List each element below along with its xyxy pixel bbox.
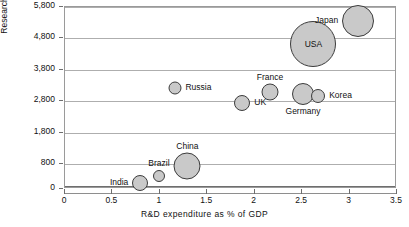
y-tick-label: 0 bbox=[0, 183, 55, 192]
bubble-label-brazil: Brazil bbox=[148, 159, 169, 168]
x-tick-label: 2.5 bbox=[295, 196, 307, 205]
bubble-japan[interactable] bbox=[342, 5, 374, 37]
bubble-label-china: China bbox=[176, 142, 198, 151]
x-tick-label: 1 bbox=[156, 196, 161, 205]
x-tick-label: 1.5 bbox=[200, 196, 212, 205]
x-tick-mark bbox=[159, 189, 160, 194]
y-tick-label: 5,800 bbox=[0, 1, 55, 10]
x-tick-mark bbox=[396, 189, 397, 194]
y-tick-label: 800 bbox=[0, 158, 55, 167]
bubble-label-usa: USA bbox=[305, 39, 322, 49]
x-tick-mark bbox=[254, 189, 255, 194]
gridline-y bbox=[65, 7, 395, 8]
bubble-russia[interactable] bbox=[168, 81, 181, 94]
x-tick-mark bbox=[301, 189, 302, 194]
bubble-korea[interactable] bbox=[311, 89, 325, 103]
y-tick-mark bbox=[59, 37, 63, 38]
y-tick-mark bbox=[59, 188, 63, 189]
x-tick-label: 3.5 bbox=[390, 196, 402, 205]
bubble-india[interactable] bbox=[132, 175, 148, 191]
gridline-y bbox=[65, 38, 395, 39]
y-tick-label: 1,800 bbox=[0, 127, 55, 136]
bubble-label-japan: Japan bbox=[315, 16, 338, 25]
gridline-y bbox=[65, 101, 395, 102]
bubble-label-india: India bbox=[110, 178, 128, 187]
bubble-label-russia: Russia bbox=[185, 83, 211, 92]
y-tick-mark bbox=[59, 132, 63, 133]
x-axis-title: R&D expenditure as % of GDP bbox=[0, 209, 409, 219]
x-tick-mark bbox=[111, 189, 112, 194]
bubble-brazil[interactable] bbox=[153, 170, 165, 182]
x-axis-line bbox=[64, 193, 396, 194]
x-tick-mark bbox=[64, 189, 65, 194]
bubble-usa[interactable]: USA bbox=[290, 21, 336, 67]
y-tick-mark bbox=[59, 6, 63, 7]
x-tick-label: 0 bbox=[62, 196, 67, 205]
y-tick-label: 2,800 bbox=[0, 95, 55, 104]
x-tick-mark bbox=[349, 189, 350, 194]
bubble-china[interactable] bbox=[174, 153, 201, 180]
bubble-label-korea: Korea bbox=[329, 91, 352, 100]
gridline-y bbox=[65, 164, 395, 165]
y-tick-mark bbox=[59, 100, 63, 101]
x-tick-mark bbox=[206, 189, 207, 194]
x-tick-label: 0.5 bbox=[106, 196, 118, 205]
bubble-chart: Researchers per million R&D expenditure … bbox=[0, 0, 409, 227]
x-tick-label: 3 bbox=[346, 196, 351, 205]
bubble-label-germany: Germany bbox=[286, 107, 321, 116]
bubble-label-uk: UK bbox=[254, 98, 266, 107]
bubble-uk[interactable] bbox=[234, 95, 250, 111]
y-tick-label: 4,800 bbox=[0, 32, 55, 41]
gridline-y bbox=[65, 70, 395, 71]
y-tick-mark bbox=[59, 163, 63, 164]
gridline-y bbox=[65, 133, 395, 134]
y-tick-label: 3,800 bbox=[0, 64, 55, 73]
x-tick-label: 2 bbox=[251, 196, 256, 205]
bubble-label-france: France bbox=[257, 73, 283, 82]
y-tick-mark bbox=[59, 69, 63, 70]
